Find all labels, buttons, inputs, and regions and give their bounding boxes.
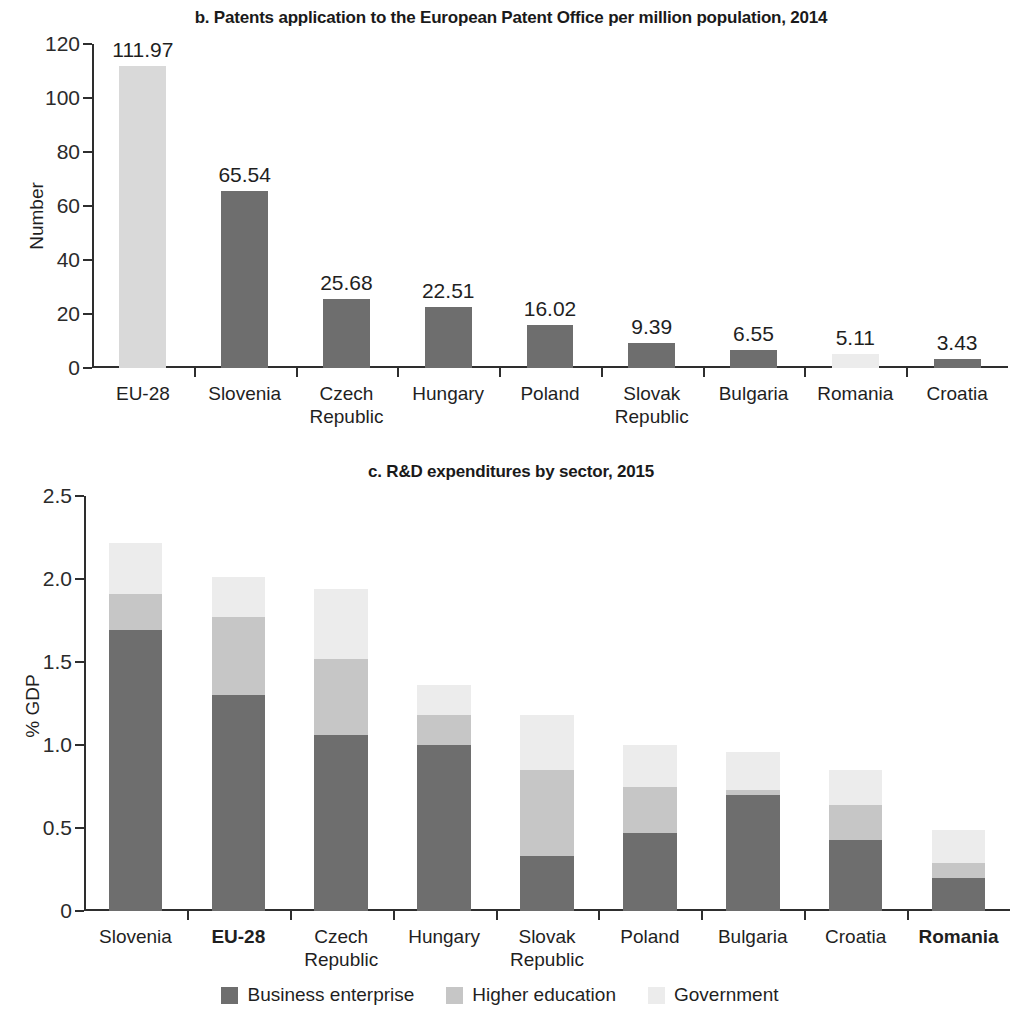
x-category-label: Poland — [598, 925, 701, 948]
panel-c-title: c. R&D expenditures by sector, 2015 — [0, 462, 1022, 482]
x-tick-mark — [499, 368, 501, 377]
y-tick-label: 2.0 — [43, 567, 72, 591]
y-tick-label: 0 — [60, 899, 72, 923]
x-tick-mark — [804, 368, 806, 377]
x-category-label: Romania — [804, 382, 906, 405]
bar-value-label: 22.51 — [422, 279, 475, 303]
panel-b-plot-area: 020406080100120EU-28SloveniaCzech Republ… — [92, 44, 1008, 368]
panel-b-y-axis-title: Number — [26, 161, 48, 271]
bar-segment — [520, 715, 574, 770]
x-category-label: Hungary — [393, 925, 496, 948]
legend-swatch-government — [648, 987, 665, 1004]
y-tick-label: 100 — [45, 86, 80, 110]
bar-segment — [212, 577, 266, 617]
bar-segment — [417, 685, 471, 715]
y-tick-label: 0 — [68, 356, 80, 380]
bar — [119, 66, 166, 368]
x-tick-mark — [601, 368, 603, 377]
stacked-bar — [314, 589, 368, 911]
bar-value-label: 6.55 — [733, 322, 774, 346]
y-tick-label: 60 — [57, 194, 80, 218]
bar-segment — [932, 878, 986, 911]
y-tick-mark — [83, 259, 92, 261]
x-category-label: Slovak Republic — [601, 382, 703, 428]
bar-segment — [623, 745, 677, 787]
bar-segment — [520, 856, 574, 911]
bar-segment — [829, 840, 883, 911]
x-tick-mark — [906, 368, 908, 377]
y-tick-mark — [75, 744, 84, 746]
x-tick-mark — [804, 911, 806, 920]
bar-value-label: 5.11 — [836, 326, 875, 350]
y-tick-mark — [75, 827, 84, 829]
y-tick-label: 1.0 — [43, 733, 72, 757]
bar — [527, 325, 574, 368]
bar-segment — [932, 830, 986, 863]
y-tick-label: 1.5 — [43, 650, 72, 674]
legend-label: Government — [674, 984, 779, 1006]
x-category-label: Hungary — [397, 382, 499, 405]
x-tick-mark — [703, 368, 705, 377]
bar-segment — [520, 770, 574, 856]
x-category-label: Czech Republic — [290, 925, 393, 971]
x-category-label: Czech Republic — [296, 382, 398, 428]
bar-segment — [623, 833, 677, 911]
y-tick-label: 20 — [57, 302, 80, 326]
x-tick-mark — [296, 368, 298, 377]
x-category-label: Romania — [907, 925, 1010, 948]
stacked-bar — [109, 542, 163, 911]
y-tick-label: 0.5 — [43, 816, 72, 840]
legend-swatch-higher-education — [446, 987, 463, 1004]
bar-segment — [212, 617, 266, 695]
bar — [323, 299, 370, 368]
stacked-bar — [520, 715, 574, 911]
bar-segment — [212, 695, 266, 911]
bar-segment — [829, 770, 883, 805]
bar-segment — [109, 630, 163, 911]
stacked-bar — [417, 685, 471, 911]
x-category-label: Bulgaria — [703, 382, 805, 405]
y-tick-mark — [83, 205, 92, 207]
bar-segment — [726, 790, 780, 795]
x-tick-mark — [496, 911, 498, 920]
panel-c-legend: Business enterpriseHigher educationGover… — [0, 984, 1022, 1006]
x-category-label: Bulgaria — [701, 925, 804, 948]
y-tick-mark — [75, 578, 84, 580]
bar — [628, 343, 675, 368]
y-tick-mark — [83, 43, 92, 45]
legend-item: Government — [648, 984, 779, 1006]
bar-segment — [932, 863, 986, 878]
x-category-label: Slovenia — [194, 382, 296, 405]
bar — [934, 359, 981, 368]
x-tick-mark — [701, 911, 703, 920]
x-category-label: Croatia — [804, 925, 907, 948]
x-tick-mark — [290, 911, 292, 920]
bar-segment — [314, 735, 368, 911]
legend-item: Higher education — [446, 984, 616, 1006]
bar-value-label: 111.97 — [112, 38, 173, 62]
y-tick-label: 40 — [57, 248, 80, 272]
x-category-label: EU-28 — [187, 925, 290, 948]
legend-swatch-business-enterprise — [221, 987, 238, 1004]
bar-value-label: 65.54 — [218, 163, 271, 187]
figure-root: b. Patents application to the European P… — [0, 0, 1022, 1015]
legend-item: Business enterprise — [221, 984, 414, 1006]
stacked-bar — [212, 577, 266, 911]
y-tick-label: 80 — [57, 140, 80, 164]
stacked-bar — [623, 745, 677, 911]
y-tick-mark — [75, 910, 84, 912]
x-tick-mark — [393, 911, 395, 920]
y-tick-mark — [83, 151, 92, 153]
y-tick-mark — [83, 367, 92, 369]
panel-c-plot-area: 00.51.01.52.02.5SloveniaEU-28Czech Repub… — [84, 496, 1010, 911]
bar — [730, 350, 777, 368]
legend-label: Higher education — [472, 984, 616, 1006]
y-tick-mark — [75, 661, 84, 663]
y-tick-mark — [83, 97, 92, 99]
y-tick-mark — [83, 313, 92, 315]
x-category-label: EU-28 — [92, 382, 194, 405]
bar-segment — [417, 715, 471, 745]
bar-segment — [623, 787, 677, 833]
bar-segment — [726, 752, 780, 790]
x-tick-mark — [598, 911, 600, 920]
